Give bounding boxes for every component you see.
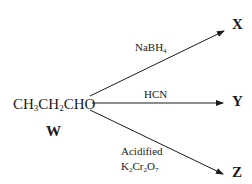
- reagent-acidified: Acidified: [121, 145, 163, 157]
- product-z: Z: [232, 164, 242, 181]
- reactant-formula: CH3CH2CHO: [13, 96, 95, 113]
- reagent-hcn: HCN: [144, 88, 167, 100]
- product-x: X: [232, 16, 243, 33]
- product-y: Y: [232, 93, 243, 110]
- reactant-label: W: [46, 123, 61, 140]
- reagent-nabh4: NaBH4: [135, 41, 167, 55]
- reagent-dichromate: K2Cr2O7: [121, 160, 158, 174]
